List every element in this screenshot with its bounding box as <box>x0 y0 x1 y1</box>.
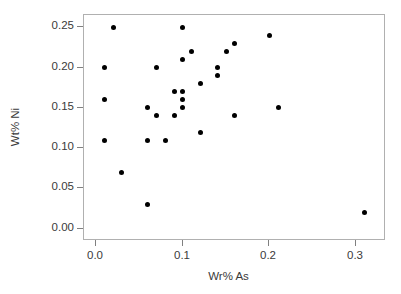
data-point <box>198 81 203 86</box>
x-tick-label: 0.2 <box>238 250 298 262</box>
plot-area <box>83 14 385 240</box>
data-point <box>145 202 150 207</box>
data-point <box>102 65 107 70</box>
data-point <box>232 41 237 46</box>
data-point <box>172 113 177 118</box>
data-point <box>180 57 185 62</box>
data-point <box>111 25 116 30</box>
data-point <box>102 138 107 143</box>
y-tick-label: 0.05 <box>14 181 74 193</box>
data-point <box>145 105 150 110</box>
data-point <box>119 170 124 175</box>
x-tick-label: 0.1 <box>152 250 212 262</box>
data-point <box>276 105 281 110</box>
x-tick-mark <box>182 240 183 246</box>
data-point <box>224 49 229 54</box>
data-point <box>154 65 159 70</box>
data-point <box>102 97 107 102</box>
y-tick-label: 0.00 <box>14 222 74 234</box>
x-tick-label: 0.3 <box>325 250 385 262</box>
x-axis-label: Wr% As <box>0 270 401 282</box>
data-point <box>154 113 159 118</box>
data-point <box>180 105 185 110</box>
data-point <box>215 65 220 70</box>
data-point <box>198 130 203 135</box>
y-axis-label: Wt% Ni <box>8 14 22 240</box>
y-tick-label: 0.20 <box>14 61 74 73</box>
data-point <box>362 210 367 215</box>
data-point <box>267 33 272 38</box>
data-point <box>189 49 194 54</box>
y-tick-label: 0.25 <box>14 20 74 32</box>
data-point <box>172 89 177 94</box>
y-tick-label: 0.15 <box>14 101 74 113</box>
data-point <box>180 97 185 102</box>
data-point <box>180 89 185 94</box>
data-point <box>163 138 168 143</box>
data-point <box>180 25 185 30</box>
data-point <box>215 73 220 78</box>
x-tick-mark <box>95 240 96 246</box>
data-point <box>232 113 237 118</box>
data-point <box>145 138 150 143</box>
x-tick-label: 0.0 <box>65 250 125 262</box>
x-tick-mark <box>268 240 269 246</box>
x-tick-mark <box>355 240 356 246</box>
scatter-plot-figure: Wt% Ni 0.000.050.100.150.200.25 0.00.10.… <box>0 0 401 294</box>
y-tick-label: 0.10 <box>14 141 74 153</box>
